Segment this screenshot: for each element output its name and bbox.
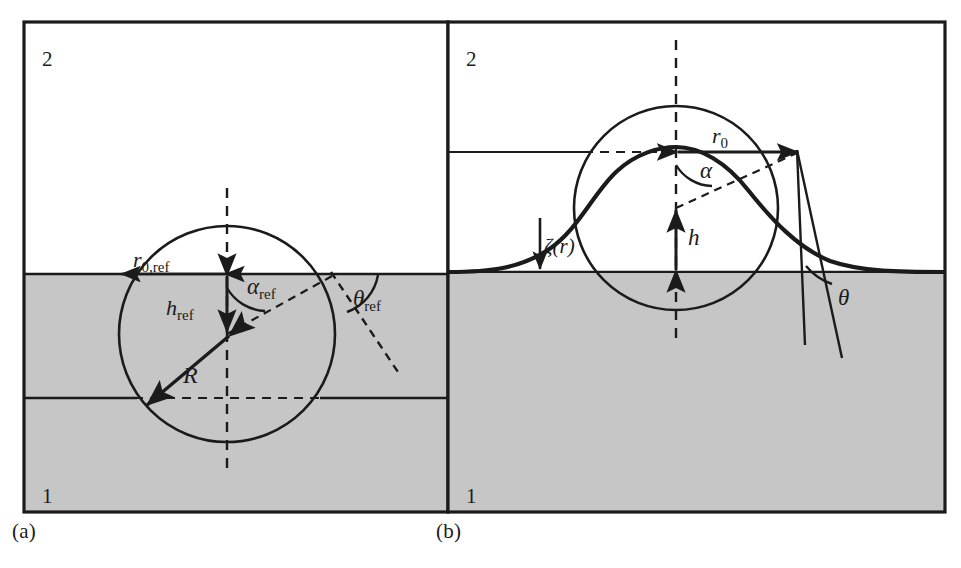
panel-b (448, 22, 945, 512)
panel-b-h-label: h (688, 225, 700, 250)
panel-a (24, 22, 448, 512)
panel-b-phase1-label: 1 (466, 484, 477, 508)
panel-b-phase2-label: 2 (466, 47, 477, 71)
panel-b-theta-label: θ (838, 285, 849, 310)
figure-container: 2 1 r0,ref href αref θref R 2 1 r0 α h ζ… (0, 0, 961, 568)
panel-a-phase2-fill (24, 22, 448, 274)
panel-a-phase2-label: 2 (42, 47, 53, 71)
panel-a-phase1-fill (24, 274, 448, 512)
panel-a-R-label: R (182, 362, 198, 388)
panel-a-caption: (a) (12, 519, 36, 544)
panel-a-phase1-label: 1 (42, 484, 53, 508)
diagram-svg: 2 1 r0,ref href αref θref R 2 1 r0 α h ζ… (0, 0, 961, 568)
panel-b-caption: (b) (436, 519, 461, 544)
panel-b-alpha-label: α (700, 158, 713, 183)
panel-b-zeta-label: ζ(r) (544, 234, 575, 258)
